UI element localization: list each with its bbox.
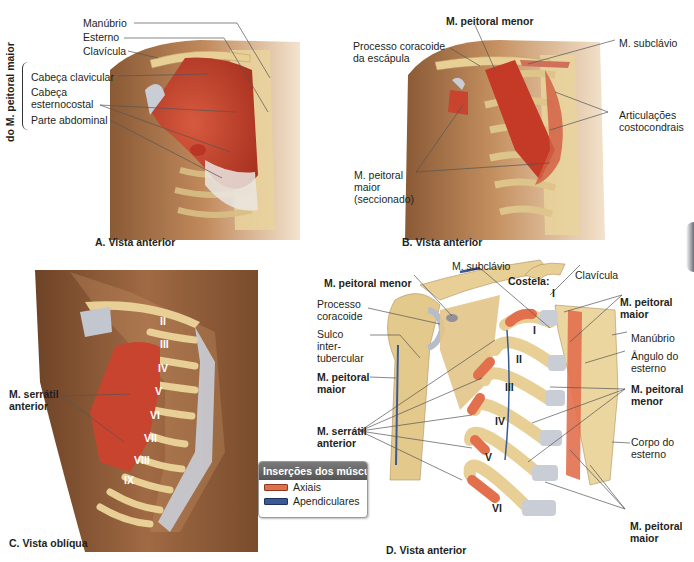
panel-d-caption: D. Vista anterior [386,544,466,556]
panel-c-caption: C. Vista oblíqua [9,537,88,549]
label-sulco-2: inter- [317,340,341,352]
label-processo-2: coracoide [317,310,363,322]
label-manubrio: Manúbrio [83,17,127,29]
label-serratil-d-1: M. serrátil [317,425,367,437]
legend-item-appendicular: Apendiculares [259,494,367,508]
label-costela: Costela: [508,275,549,287]
rib-label-c-5: V [155,385,162,397]
label-articulacoes-1: Articulações [619,109,676,121]
legend-label-appendicular: Apendiculares [293,495,360,507]
label-processo-1: Processo [317,298,361,310]
label-manubrio-d: Manúbrio [631,332,675,344]
label-esterno: Esterno [83,31,119,43]
rib-label-c-2: II [160,315,166,327]
label-peitoral-maior-top-1: M. peitoral [620,296,673,308]
rib-label-c-4: IV [158,362,168,374]
label-corpo-1: Corpo do [631,436,674,448]
rib-label-c-6: VI [150,409,160,421]
label-peitoral-maior-top-2: maior [620,308,649,320]
label-peitoral-menor-right-2: menor [631,395,663,407]
panel-a-anterior-view: do M. peitoral maior Manúbrio Esterno Cl… [0,0,300,250]
label-processo-coracoide-1: Processo coracoide [353,40,445,52]
label-cabeca-esternocostal-1: Cabeça [31,86,67,98]
panel-c-oblique-view: II III IV V VI VII VIII IX M. serrátil a… [0,262,300,562]
legend-title: Inserções dos músculos [259,462,367,480]
label-clavicula: Clavícula [83,45,126,57]
legend-label-axial: Axiais [293,481,321,493]
legend-item-axial: Axiais [259,480,367,494]
label-peitoral-maior-left-2: maior [317,383,346,395]
label-clavicula-d: Clavícula [575,269,618,281]
label-peitoral-menor: M. peitoral menor [446,15,534,27]
label-subclavio: M. subclávio [619,37,677,49]
rib-label-d-4: IV [495,415,505,427]
label-subclavio-d: M. subclávio [452,260,510,272]
label-peitoral-maior-2: maior [354,181,380,193]
label-peitoral-maior-bottom-2: maior [630,532,659,544]
pectoralis-major-group-label: do M. peitoral maior [4,42,16,142]
label-serratil-d-2: anterior [317,437,356,449]
rib-label-c-7: VII [144,432,157,444]
label-peitoral-maior-3: (seccionado) [354,193,414,205]
label-processo-coracoide-2: da escápula [353,52,410,64]
rib-label-d-3: III [505,381,514,393]
label-sulco-3: tubercular [317,352,364,364]
label-angulo-2: esterno [631,362,666,374]
muscle-insertion-legend: Inserções dos músculos Axiais Apendicula… [258,461,368,518]
rib-label-c-9: IX [124,474,134,486]
label-peitoral-maior-bottom-1: M. peitoral [630,520,683,532]
label-corpo-2: esterno [631,448,666,460]
label-angulo-1: Ângulo do [631,350,678,362]
label-peitoral-menor-right-1: M. peitoral [631,383,684,395]
rib-label-d-2: II [516,353,522,365]
label-parte-abdominal: Parte abdominal [31,114,107,126]
label-cabeca-clavicular: Cabeça clavicular [31,71,114,83]
rib-label-d-1-top: I [552,287,555,299]
group-brace [22,62,29,130]
panel-a-caption: A. Vista anterior [95,236,175,248]
label-serratil-1: M. serrátil [9,388,59,400]
label-sulco-1: Sulco [317,328,343,340]
panel-b-anterior-view: M. peitoral menor Processo coracoide da … [340,0,694,250]
label-peitoral-maior-1: M. peitoral [354,169,403,181]
label-cabeca-esternocostal-2: esternocostal [31,98,93,110]
rib-label-d-5: V [485,451,492,463]
rib-label-d-6: VI [492,502,502,514]
axial-swatch-icon [264,484,288,491]
panel-b-caption: B. Vista anterior [402,236,482,248]
rib-label-c-3: III [160,338,169,350]
label-serratil-2: anterior [9,400,48,412]
label-articulacoes-2: costocondrais [619,121,684,133]
rib-label-c-8: VIII [134,454,150,466]
label-peitoral-maior-left-1: M. peitoral [317,371,370,383]
appendicular-swatch-icon [264,498,288,505]
rib-label-d-1: I [533,324,536,336]
label-peitoral-menor-left: M. peitoral menor [324,277,412,289]
